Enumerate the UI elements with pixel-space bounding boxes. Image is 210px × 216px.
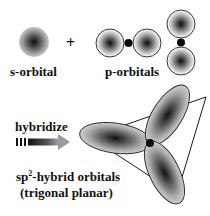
orbital-hybridization-diagram: s-orbital + p-orbitals hybridize bbox=[0, 0, 210, 216]
p-orbital-horizontal bbox=[96, 29, 161, 57]
p-orbital-vertical bbox=[167, 10, 195, 75]
p-orbitals-label: p-orbitals bbox=[105, 64, 159, 79]
s-orbital bbox=[19, 27, 49, 57]
s-orbital-label: s-orbital bbox=[10, 64, 57, 79]
nucleus-dot bbox=[146, 139, 154, 147]
plus-sign: + bbox=[66, 34, 75, 51]
sp2-label: sp2-hybrid orbitals bbox=[16, 169, 120, 184]
hybridize-arrow-icon bbox=[16, 134, 70, 150]
hybridize-label: hybridize bbox=[15, 119, 68, 134]
nucleus-dot bbox=[177, 39, 185, 47]
nucleus-dot bbox=[125, 39, 133, 47]
trigonal-planar-label: (trigonal planar) bbox=[20, 185, 113, 200]
